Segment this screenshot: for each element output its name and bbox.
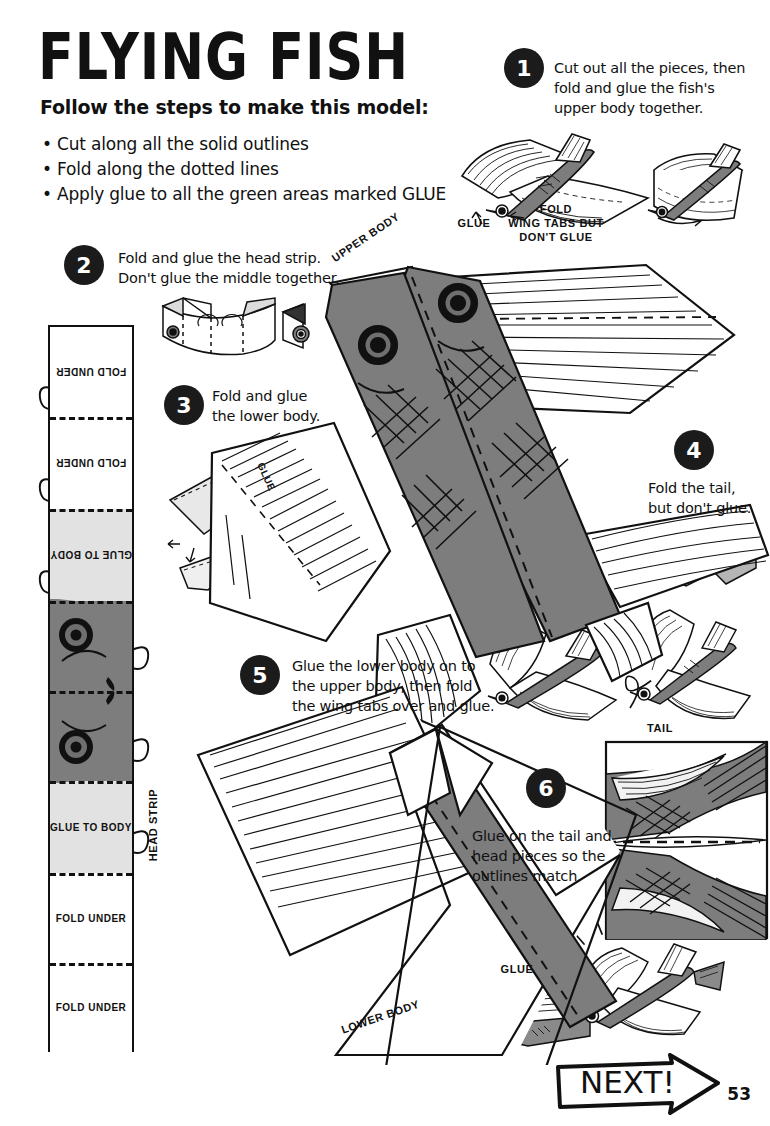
page-number: 53 <box>727 1084 751 1104</box>
glue-label-step6: GLUE <box>494 962 540 976</box>
bullet-item: Fold along the dotted lines <box>42 157 446 182</box>
next-label: NEXT! <box>580 1064 675 1100</box>
bullet-item: Apply glue to all the green areas marked… <box>42 182 446 207</box>
step-5-caption: Glue the lower body on to the upper body… <box>292 656 514 716</box>
fold-wing-tabs-label: FOLD WING TABS BUT DON'T GLUE <box>500 202 612 244</box>
step-2-caption: Fold and glue the head strip. Don't glue… <box>118 248 348 288</box>
head-strip-segment: FOLD UNDER <box>50 417 132 509</box>
step-3-caption: Fold and glue the lower body. <box>212 386 372 426</box>
head-strip-label: HEAD STRIP <box>146 785 160 865</box>
step-1-badge: 1 <box>504 48 544 88</box>
step-3-badge: 3 <box>164 385 204 425</box>
head-strip-piece: FOLD UNDER FOLD UNDER GLUE TO BODY GLUE … <box>48 325 134 1052</box>
page-title: FLYING FISH <box>38 26 409 90</box>
step-6-badge: 6 <box>526 768 566 808</box>
step-5-badge: 5 <box>240 655 280 695</box>
tail-label: TAIL <box>630 721 690 735</box>
page-subtitle: Follow the steps to make this model: <box>40 96 429 118</box>
step-4-badge: 4 <box>674 430 714 470</box>
step-4-caption: Fold the tail, but don't glue. <box>648 478 764 518</box>
head-strip-segment: GLUE TO BODY <box>50 509 132 601</box>
head-strip-segment: GLUE TO BODY <box>50 781 132 873</box>
step-1-caption: Cut out all the pieces, then fold and gl… <box>554 58 764 118</box>
step-6-caption: Glue on the tail and head pieces so the … <box>472 826 622 886</box>
head-strip-segment: FOLD UNDER <box>50 327 132 417</box>
step-2-badge: 2 <box>64 245 104 285</box>
head-strip-segment: FOLD UNDER <box>50 873 132 963</box>
head-strip-segment: FOLD UNDER <box>50 963 132 1052</box>
bullet-item: Cut along all the solid outlines <box>42 132 446 157</box>
glue-label-step1: GLUE <box>452 216 496 230</box>
instruction-bullets: Cut along all the solid outlines Fold al… <box>42 132 446 207</box>
